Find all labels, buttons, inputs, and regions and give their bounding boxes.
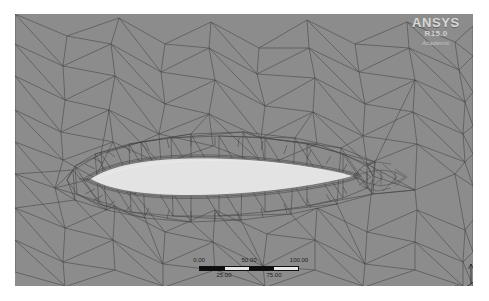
ansys-mesh-screenshot: ANSYS R15.0 Academic 0.00 50.00 100.00 2…: [0, 0, 489, 301]
mesh-background: [15, 14, 473, 286]
bottom-margin: [0, 286, 489, 301]
mesh-viewport[interactable]: ANSYS R15.0 Academic 0.00 50.00 100.00 2…: [15, 14, 473, 286]
mesh-canvas[interactable]: [15, 14, 473, 286]
